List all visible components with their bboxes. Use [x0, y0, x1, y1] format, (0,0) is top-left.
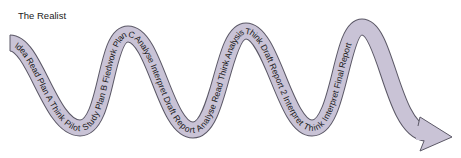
wavy-process-arrow: Idea Read Plan A Think Pilot Study Plan …	[0, 0, 461, 158]
arrow-joint	[416, 126, 424, 140]
